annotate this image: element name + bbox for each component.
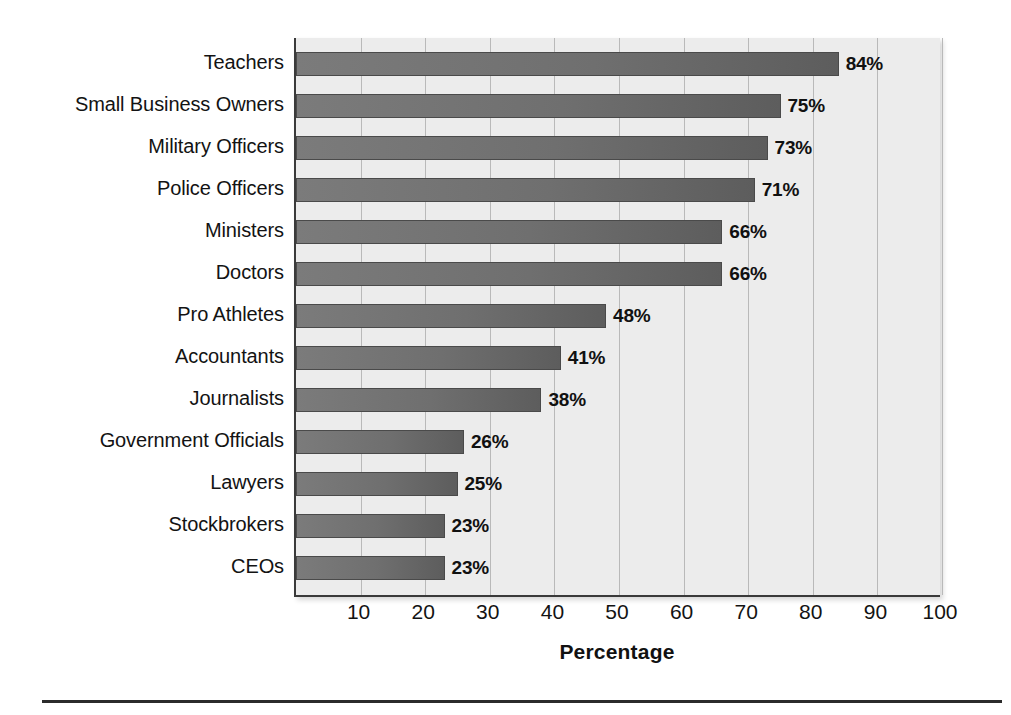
x-tick-label: 10 — [347, 600, 370, 624]
bar-value-label: 41% — [568, 347, 605, 369]
x-tick-label: 70 — [735, 600, 758, 624]
bar — [296, 304, 606, 328]
bar — [296, 178, 755, 202]
category-axis-labels: TeachersSmall Business OwnersMilitary Of… — [0, 38, 284, 597]
bar-value-label: 26% — [471, 431, 508, 453]
category-label: Police Officers — [4, 177, 284, 200]
bar — [296, 556, 445, 580]
bottom-divider-rule — [42, 700, 1002, 703]
x-tick-label: 20 — [412, 600, 435, 624]
x-axis-tick-labels: 102030405060708090100 — [294, 600, 940, 634]
bar-row: 23% — [296, 551, 940, 585]
bar — [296, 136, 768, 160]
bar-row: 38% — [296, 383, 940, 417]
bar-value-label: 38% — [548, 389, 585, 411]
bar-value-label: 66% — [729, 221, 766, 243]
x-tick-label: 30 — [476, 600, 499, 624]
bar — [296, 346, 561, 370]
category-label: CEOs — [4, 555, 284, 578]
x-tick-label: 90 — [864, 600, 887, 624]
bar-row: 23% — [296, 509, 940, 543]
bar-row: 26% — [296, 425, 940, 459]
x-tick-label: 60 — [670, 600, 693, 624]
bar-value-label: 84% — [846, 53, 883, 75]
category-label: Journalists — [4, 387, 284, 410]
bar — [296, 472, 458, 496]
category-label: Teachers — [4, 51, 284, 74]
bar — [296, 514, 445, 538]
bar — [296, 262, 722, 286]
bar-row: 84% — [296, 47, 940, 81]
category-label: Lawyers — [4, 471, 284, 494]
plot-area: 84%75%73%71%66%66%48%41%38%26%25%23%23% — [294, 38, 940, 597]
bar-row: 25% — [296, 467, 940, 501]
bar-row: 41% — [296, 341, 940, 375]
bar-value-label: 71% — [762, 179, 799, 201]
bar — [296, 52, 839, 76]
bar-value-label: 48% — [613, 305, 650, 327]
bar — [296, 94, 781, 118]
bar-row: 73% — [296, 131, 940, 165]
category-label: Military Officers — [4, 135, 284, 158]
bar-value-label: 66% — [729, 263, 766, 285]
bar — [296, 430, 464, 454]
bar-row: 48% — [296, 299, 940, 333]
bar-row: 71% — [296, 173, 940, 207]
x-axis-title: Percentage — [294, 640, 940, 664]
x-tick-label: 50 — [605, 600, 628, 624]
bar-value-label: 73% — [775, 137, 812, 159]
x-tick-label: 40 — [541, 600, 564, 624]
x-tick-label: 80 — [799, 600, 822, 624]
category-label: Stockbrokers — [4, 513, 284, 536]
bar-value-label: 23% — [452, 515, 489, 537]
bar-chart-figure: TeachersSmall Business OwnersMilitary Of… — [0, 0, 1011, 715]
category-label: Ministers — [4, 219, 284, 242]
bar-row: 66% — [296, 215, 940, 249]
x-tick-label: 100 — [922, 600, 957, 624]
category-label: Government Officials — [4, 429, 284, 452]
bar — [296, 388, 541, 412]
bar-row: 66% — [296, 257, 940, 291]
bar — [296, 220, 722, 244]
plot-inner: 84%75%73%71%66%66%48%41%38%26%25%23%23% — [296, 38, 940, 595]
gridline-100 — [942, 38, 943, 595]
bar-value-label: 25% — [465, 473, 502, 495]
category-label: Accountants — [4, 345, 284, 368]
bar-row: 75% — [296, 89, 940, 123]
bar-value-label: 23% — [452, 557, 489, 579]
category-label: Pro Athletes — [4, 303, 284, 326]
category-label: Small Business Owners — [4, 93, 284, 116]
bar-value-label: 75% — [788, 95, 825, 117]
category-label: Doctors — [4, 261, 284, 284]
